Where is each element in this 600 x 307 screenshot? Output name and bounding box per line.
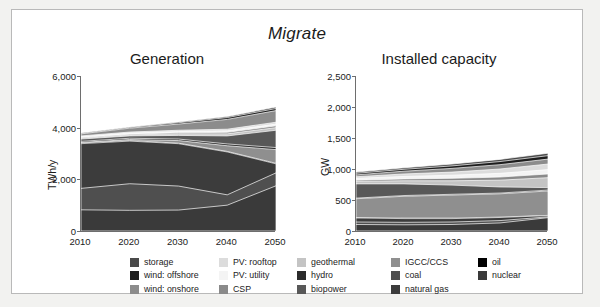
legend-column: oilnuclear [478, 256, 521, 283]
legend-swatch-icon [391, 285, 400, 294]
x-axis-tick-label: 2050 [264, 236, 285, 247]
y-axis-tick-mark [77, 128, 80, 129]
legend-item-label: biopower [311, 285, 347, 294]
legend-item[interactable]: storage [130, 256, 199, 269]
y-axis-tick-label: 6,000 [52, 71, 76, 82]
y-axis-tick-mark [352, 200, 355, 201]
legend-item-label: wind: offshore [144, 271, 199, 280]
y-axis-tick-mark [352, 169, 355, 170]
y-axis-tick-label: 500 [335, 195, 351, 206]
x-axis-tick-label: 2030 [440, 236, 461, 247]
legend-item-label: PV: rooftop [233, 258, 277, 267]
legend-item[interactable]: CSP [219, 283, 277, 296]
y-axis-tick-mark [352, 107, 355, 108]
y-axis-tick-label: 2,000 [52, 174, 76, 185]
y-axis-tick-label: 0 [346, 226, 351, 237]
legend-item[interactable]: wind: offshore [130, 270, 199, 283]
chart-generation-plot-area: 02,0004,0006,00020102020203020402050 [80, 76, 275, 231]
legend-swatch-icon [297, 271, 306, 280]
y-axis-line [80, 76, 81, 231]
x-axis-tick-label: 2020 [392, 236, 413, 247]
legend-item-label: natural gas [405, 285, 449, 294]
stacked-area-series-group [81, 76, 276, 231]
y-axis-tick-mark [352, 76, 355, 77]
legend-item-label: PV: utility [233, 271, 269, 280]
x-axis-tick-label: 2010 [69, 236, 90, 247]
legend-swatch-icon [478, 271, 487, 280]
y-axis-tick-mark [352, 231, 355, 232]
legend-item-label: coal [405, 271, 421, 280]
legend-swatch-icon [130, 258, 139, 267]
x-axis-tick-label: 2050 [536, 236, 557, 247]
chart-legend: storagewind: offshorewind: onshorePV: ro… [12, 256, 582, 296]
legend-item-label: IGCC/CCS [405, 258, 448, 267]
legend-item-label: CSP [233, 285, 251, 294]
legend-column: IGCC/CCScoalnatural gas [391, 256, 449, 297]
legend-item[interactable]: oil [478, 256, 521, 269]
legend-swatch-icon [297, 285, 306, 294]
chart-installed-capacity: Installed capacity GW 05001,0001,5002,00… [305, 50, 573, 250]
stacked-area-series-group [356, 76, 548, 231]
legend-item[interactable]: natural gas [391, 283, 449, 296]
legend-swatch-icon [478, 258, 487, 267]
x-axis-line [355, 231, 547, 232]
legend-item[interactable]: coal [391, 270, 449, 283]
legend-item-label: hydro [311, 271, 333, 280]
legend-item[interactable]: IGCC/CCS [391, 256, 449, 269]
legend-swatch-icon [391, 271, 400, 280]
legend-item-label: storage [144, 258, 173, 267]
y-axis-tick-label: 2,500 [327, 71, 351, 82]
legend-column: storagewind: offshorewind: onshore [130, 256, 199, 297]
figure-title: Migrate [12, 24, 582, 44]
chart-generation: Generation TWh/y 02,0004,0006,0002010202… [32, 50, 302, 250]
legend-swatch-icon [219, 258, 228, 267]
x-axis-tick-label: 2010 [344, 236, 365, 247]
legend-item[interactable]: wind: onshore [130, 283, 199, 296]
legend-item-label: wind: onshore [144, 285, 199, 294]
legend-item[interactable]: PV: rooftop [219, 256, 277, 269]
legend-item-label: nuclear [492, 271, 521, 280]
y-axis-tick-mark [77, 179, 80, 180]
y-axis-tick-label: 0 [71, 226, 76, 237]
y-axis-tick-label: 4,000 [52, 122, 76, 133]
x-axis-tick-label: 2040 [488, 236, 509, 247]
legend-swatch-icon [130, 271, 139, 280]
y-axis-line [355, 76, 356, 231]
legend-item[interactable]: nuclear [478, 270, 521, 283]
y-axis-tick-label: 1,000 [327, 164, 351, 175]
legend-item[interactable]: biopower [297, 283, 355, 296]
legend-swatch-icon [219, 271, 228, 280]
legend-column: PV: rooftopPV: utilityCSP [219, 256, 277, 297]
legend-item[interactable]: PV: utility [219, 270, 277, 283]
x-axis-tick-label: 2020 [118, 236, 139, 247]
legend-swatch-icon [391, 258, 400, 267]
y-axis-tick-label: 2,000 [327, 102, 351, 113]
legend-swatch-icon [219, 285, 228, 294]
y-axis-tick-mark [352, 138, 355, 139]
legend-item-label: oil [492, 258, 501, 267]
x-axis-line [80, 231, 275, 232]
legend-swatch-icon [130, 285, 139, 294]
chart-generation-title: Generation [32, 50, 302, 67]
y-axis-tick-mark [77, 231, 80, 232]
x-axis-tick-label: 2040 [216, 236, 237, 247]
figure-panel: Migrate Generation TWh/y 02,0004,0006,00… [11, 9, 583, 294]
legend-column: geothermalhydrobiopower [297, 256, 355, 297]
x-axis-tick-label: 2030 [167, 236, 188, 247]
chart-installed-capacity-plot-area: 05001,0001,5002,0002,5002010202020302040… [355, 76, 547, 231]
legend-swatch-icon [297, 258, 306, 267]
legend-item[interactable]: hydro [297, 270, 355, 283]
y-axis-tick-mark [77, 76, 80, 77]
chart-installed-capacity-title: Installed capacity [305, 50, 573, 67]
y-axis-tick-label: 1,500 [327, 133, 351, 144]
legend-item[interactable]: geothermal [297, 256, 355, 269]
legend-item-label: geothermal [311, 258, 355, 267]
